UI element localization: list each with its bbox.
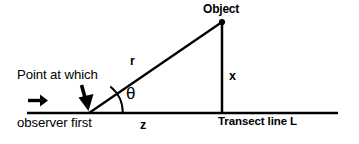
object-marker-dot bbox=[219, 19, 225, 25]
object-label: Object bbox=[203, 2, 239, 16]
figure-canvas: Point at which observer first detects ob… bbox=[0, 0, 359, 144]
radial-distance-label: r bbox=[130, 54, 135, 69]
angle-label: θ bbox=[126, 84, 135, 104]
annotation-line-2: observer first bbox=[17, 115, 98, 132]
detection-annotation: Point at which observer first detects ob… bbox=[17, 36, 98, 144]
along-transect-distance-label: z bbox=[140, 118, 146, 133]
annotation-line-1: Point at which bbox=[17, 67, 98, 84]
perpendicular-distance-label: x bbox=[229, 69, 236, 84]
transect-line-label: Transect line L bbox=[218, 115, 297, 129]
radial-distance-line bbox=[89, 22, 222, 113]
